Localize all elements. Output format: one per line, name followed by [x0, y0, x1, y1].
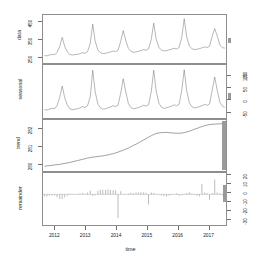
tickmark-seasonal-50: [227, 87, 231, 88]
tickmark-remainder-0: [227, 192, 231, 193]
ytick-data-450: 450: [28, 13, 33, 35]
ytick-trend-282: 282: [28, 120, 33, 142]
ytick-remainder-20: 20: [243, 166, 248, 188]
xtickmark-2016: [178, 226, 179, 230]
tickmark-remainder-minus20: [227, 210, 231, 211]
scale-bar-seasonal: [228, 93, 231, 99]
xtickmark-2012: [54, 226, 55, 230]
xtick-2012: 2012: [42, 233, 66, 238]
tickmark-trend-282: [38, 128, 42, 129]
axis-label-seasonal: seasonal: [17, 67, 23, 111]
scale-bar-data: [228, 38, 231, 43]
xtick-2013: 2013: [73, 233, 97, 238]
xtickmark-2015: [147, 226, 148, 230]
trend-series-line: [43, 120, 226, 171]
xtick-2017: 2017: [197, 233, 221, 238]
tickmark-remainder-minus30: [227, 219, 231, 220]
axis-label-data: data: [16, 15, 22, 55]
xtickmark-2014: [116, 226, 117, 230]
tickmark-data-350: [38, 39, 42, 40]
tickmark-remainder-20: [227, 174, 231, 175]
tickmark-remainder-minus10: [227, 201, 231, 202]
tickmark-remainder-10: [227, 183, 231, 184]
stl-decomposition-figure: data 250 350 450 seasonal -50 0 50 100 1…: [0, 0, 261, 262]
ytick-seasonal-150: 150: [243, 65, 248, 87]
remainder-series-bars: [43, 173, 226, 225]
panel-seasonal-plot: [42, 64, 227, 119]
tickmark-seasonal-100: [227, 75, 231, 76]
seasonal-series-line: [43, 65, 226, 118]
axis-label-remainder: remainder: [17, 174, 23, 222]
xtickmark-2013: [85, 226, 86, 230]
xtickmark-2017: [209, 226, 210, 230]
tickmark-trend-281: [38, 146, 42, 147]
scale-bar-remainder: [223, 185, 227, 202]
tickmark-trend-280: [38, 164, 42, 165]
data-series-line: [43, 15, 226, 63]
panel-trend-plot: [42, 119, 227, 172]
tickmark-data-250: [38, 57, 42, 58]
tickmark-seasonal-0: [227, 99, 231, 100]
scale-bar-trend: [222, 121, 226, 170]
axis-label-trend: trend: [15, 123, 21, 163]
xtick-2015: 2015: [135, 233, 159, 238]
tickmark-seasonal-minus50: [227, 112, 231, 113]
xtick-2016: 2016: [166, 233, 190, 238]
axis-label-time: time: [0, 246, 261, 252]
panel-remainder-plot: [42, 172, 227, 226]
tickmark-data-450: [38, 21, 42, 22]
panel-data-plot: [42, 14, 227, 64]
xtick-2014: 2014: [104, 233, 128, 238]
